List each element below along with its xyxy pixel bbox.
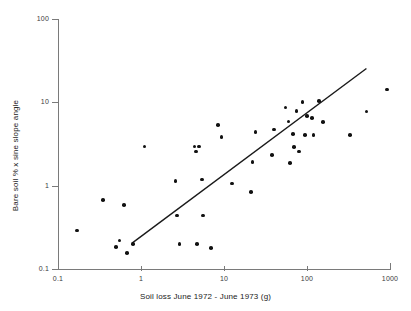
data-point <box>288 161 292 165</box>
data-point <box>317 99 321 103</box>
data-point <box>272 128 276 132</box>
data-point <box>175 214 179 218</box>
data-point <box>249 190 253 194</box>
data-point <box>143 145 147 149</box>
data-point <box>385 88 389 92</box>
data-point <box>200 178 204 182</box>
data-point <box>220 135 224 139</box>
data-point <box>287 120 291 124</box>
data-point <box>195 242 199 246</box>
data-point <box>251 160 255 164</box>
data-point <box>75 229 79 233</box>
data-point <box>270 153 274 157</box>
data-point <box>114 245 118 249</box>
data-point <box>303 133 307 137</box>
data-point <box>201 214 205 218</box>
data-point <box>291 132 295 136</box>
data-point <box>122 203 126 207</box>
data-point <box>301 100 305 104</box>
y-axis-label: Bare soil % x sine slope angle <box>8 0 24 311</box>
data-point <box>365 110 369 114</box>
x-axis-label: Soil loss June 1972 - June 1973 (g) <box>0 292 411 301</box>
data-point <box>209 246 213 250</box>
data-point <box>174 179 178 183</box>
data-point <box>125 251 129 255</box>
data-point <box>131 242 135 246</box>
data-point <box>230 182 234 186</box>
data-point <box>216 123 220 127</box>
data-point <box>118 239 122 243</box>
data-point <box>295 109 299 113</box>
data-point <box>305 114 309 118</box>
data-point <box>197 145 201 149</box>
data-point <box>254 130 258 134</box>
y-axis-label-wrapper: Bare soil % x sine slope angle <box>8 0 24 311</box>
data-point <box>101 198 105 202</box>
data-point <box>284 106 288 110</box>
data-point <box>297 150 301 154</box>
scatter-plot-figure: 100 10 1 0.1 0.1 1 10 100 1000 Soil loss… <box>0 0 411 311</box>
data-point <box>194 150 198 154</box>
data-point <box>312 133 316 137</box>
data-point <box>178 242 182 246</box>
data-point <box>348 133 352 137</box>
data-point <box>321 120 325 124</box>
data-point <box>292 145 296 149</box>
data-points-layer <box>0 0 411 311</box>
data-point <box>310 116 314 120</box>
data-point <box>193 145 197 149</box>
